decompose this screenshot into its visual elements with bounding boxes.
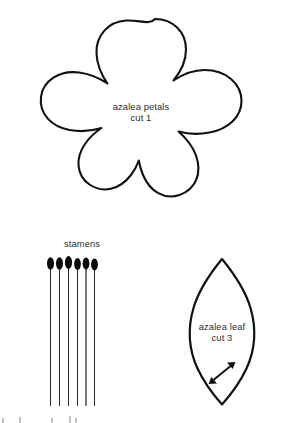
azalea-leaf-label-line2: cut 3 — [176, 332, 268, 343]
bottom-edge-ink — [0, 414, 282, 423]
page-bottom-edge-artifact — [0, 414, 282, 423]
azalea-leaf-label: azalea leaf cut 3 — [176, 321, 268, 344]
pattern-sheet: azalea petals cut 1 stamens — [0, 0, 282, 423]
azalea-leaf-label-line1: azalea leaf — [176, 321, 268, 332]
bottom-edge-marks — [3, 416, 76, 423]
azalea-leaf-shape-layer — [0, 0, 282, 423]
